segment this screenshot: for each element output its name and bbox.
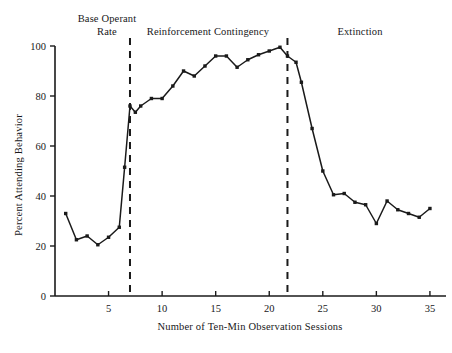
data-point-marker — [75, 238, 78, 241]
data-point-marker — [418, 216, 421, 219]
data-point-marker — [294, 61, 297, 64]
data-point-marker — [321, 169, 324, 172]
data-point-marker — [396, 208, 399, 211]
y-tick-label: 20 — [36, 241, 47, 252]
data-point-marker — [278, 46, 281, 49]
data-point-marker — [246, 58, 249, 61]
data-point-marker — [150, 97, 153, 100]
data-point-marker — [286, 54, 289, 57]
y-tick-label: 80 — [36, 91, 47, 102]
data-point-marker — [214, 54, 217, 57]
series-line — [66, 47, 430, 245]
data-point-marker — [225, 54, 228, 57]
x-tick-label: 25 — [318, 303, 329, 314]
x-tick-label: 20 — [264, 303, 275, 314]
data-point-marker — [182, 69, 185, 72]
y-axis-title: Percent Attending Behavior — [13, 114, 24, 236]
y-tick-label: 40 — [36, 191, 47, 202]
data-point-marker — [203, 64, 206, 67]
data-point-marker — [85, 234, 88, 237]
x-tick-label: 5 — [106, 303, 111, 314]
data-series-group — [64, 46, 432, 247]
x-tick-label: 10 — [157, 303, 168, 314]
data-point-marker — [332, 193, 335, 196]
y-tick-label: 100 — [30, 41, 46, 52]
data-point-marker — [428, 207, 431, 210]
data-point-marker — [107, 236, 110, 239]
data-point-marker — [96, 243, 99, 246]
chart-figure: Base Operant Rate Reinforcement Continge… — [0, 0, 452, 353]
data-point-marker — [364, 203, 367, 206]
data-point-marker — [257, 53, 260, 56]
data-point-marker — [353, 201, 356, 204]
data-point-marker — [375, 222, 378, 225]
data-point-marker — [385, 199, 388, 202]
data-point-marker — [64, 212, 67, 215]
data-point-marker — [171, 84, 174, 87]
data-point-marker — [193, 74, 196, 77]
data-point-marker — [343, 192, 346, 195]
data-point-marker — [235, 66, 238, 69]
data-point-marker — [300, 81, 303, 84]
data-point-marker — [310, 127, 313, 130]
axis-group — [55, 46, 446, 296]
data-point-marker — [134, 111, 137, 114]
x-ticks-group: 5101520253035 — [106, 291, 435, 314]
data-point-marker — [160, 97, 163, 100]
y-ticks-group: 020406080100 — [30, 41, 55, 302]
data-point-marker — [128, 104, 131, 107]
data-point-marker — [407, 212, 410, 215]
data-point-marker — [139, 104, 142, 107]
phase-divider-group — [130, 38, 287, 296]
y-tick-label: 60 — [36, 141, 47, 152]
x-axis-title: Number of Ten-Min Observation Sessions — [157, 321, 342, 332]
data-point-marker — [118, 226, 121, 229]
data-point-marker — [123, 166, 126, 169]
y-tick-label: 0 — [41, 291, 46, 302]
line-chart-plot: 020406080100 5101520253035 Number of Ten… — [0, 0, 452, 353]
x-tick-label: 30 — [371, 303, 382, 314]
x-tick-label: 15 — [210, 303, 221, 314]
x-tick-label: 35 — [425, 303, 436, 314]
data-point-marker — [268, 49, 271, 52]
